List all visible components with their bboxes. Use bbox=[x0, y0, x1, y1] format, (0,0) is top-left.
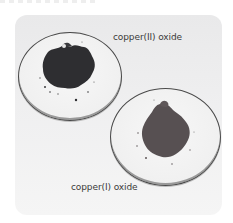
copper-ii-oxide-powder bbox=[18, 32, 122, 122]
top-dashed-strip bbox=[0, 0, 95, 3]
label-copper-ii-oxide: copper(II) oxide bbox=[113, 32, 182, 42]
label-copper-i-oxide: copper(I) oxide bbox=[71, 182, 137, 192]
copper-i-oxide-powder bbox=[110, 88, 220, 186]
